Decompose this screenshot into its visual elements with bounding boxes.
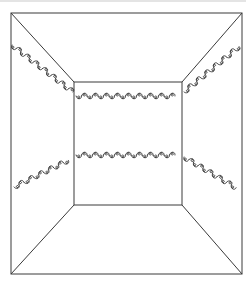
garland-lower-back <box>76 152 175 158</box>
floor-edge-right <box>182 205 242 274</box>
room-drawing <box>0 0 246 285</box>
garlands <box>12 45 241 189</box>
garland-upper-left <box>12 45 74 92</box>
garland-lower-left <box>14 160 69 188</box>
garland-upper-back <box>76 93 175 99</box>
garland-lower-right <box>184 157 236 189</box>
floor-edge-left <box>11 205 74 274</box>
room-frame <box>11 13 242 274</box>
back-wall <box>74 82 182 205</box>
